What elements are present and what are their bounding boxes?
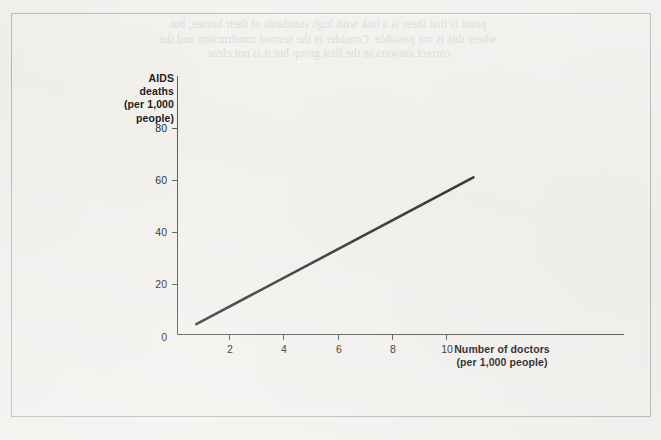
x-tick-label-4: 4 [275,343,293,355]
x-tick-label-10: 10 [438,343,456,355]
x-tick-label-8: 8 [384,343,402,355]
y-axis-title: AIDS deaths (per 1,000 people) [100,72,174,125]
chart-plot-area: AIDS deaths (per 1,000 people) Number of… [12,14,650,416]
origin-label: 0 [145,331,167,343]
scanned-page: point is that there is a link with high … [0,0,661,440]
x-tick-label-2: 2 [221,343,239,355]
y-tick-label-60: 60 [145,174,167,186]
x-axis-ticks [230,335,447,341]
y-tick-label-40: 40 [145,226,167,238]
y-tick-label-20: 20 [145,278,167,290]
figure-frame: AIDS deaths (per 1,000 people) Number of… [11,13,651,417]
data-series-line [196,177,473,324]
x-tick-label-6: 6 [330,343,348,355]
y-axis-ticks [172,129,178,285]
y-tick-label-80: 80 [145,122,167,134]
